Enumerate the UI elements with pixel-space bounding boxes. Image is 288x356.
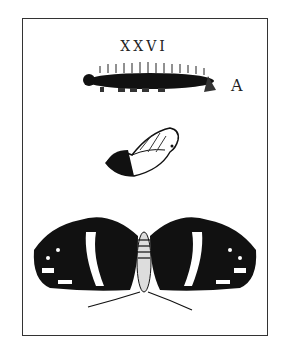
caterpillar-illustration: [83, 62, 216, 92]
butterfly-illustration: [34, 217, 256, 310]
chrysalis-illustration: [106, 128, 178, 176]
illustration: [0, 0, 288, 356]
